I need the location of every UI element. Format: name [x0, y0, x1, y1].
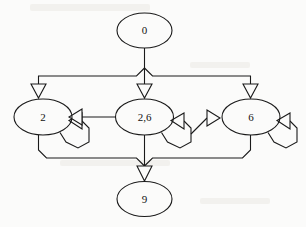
node-2-label: 2 [40, 111, 46, 123]
node-9[interactable]: 9 [117, 182, 172, 217]
node-6-label: 6 [248, 111, 254, 123]
self-loop-node-26 [162, 113, 192, 148]
arrowhead-into-node-6 [243, 84, 258, 98]
graph-svg: 0 2 2,6 6 9 [0, 0, 306, 227]
node-0-label: 0 [142, 24, 148, 36]
arrowhead-into-node-9 [137, 166, 152, 181]
node-26[interactable]: 2,6 [116, 99, 174, 135]
edge-children-to-9 [39, 135, 251, 166]
node-9-label: 9 [142, 193, 148, 205]
arrowhead-into-node-2 [31, 84, 46, 98]
node-2[interactable]: 2 [14, 99, 72, 135]
self-loop-node-6 [268, 113, 297, 148]
arrowhead-into-node-26 [137, 84, 152, 98]
diagram-canvas: 0 2 2,6 6 9 [0, 0, 306, 227]
edge-0-to-children [39, 48, 251, 84]
node-6[interactable]: 6 [222, 99, 280, 135]
node-26-label: 2,6 [138, 111, 152, 123]
edge-26-to-6 [191, 110, 220, 134]
node-0[interactable]: 0 [117, 13, 172, 48]
